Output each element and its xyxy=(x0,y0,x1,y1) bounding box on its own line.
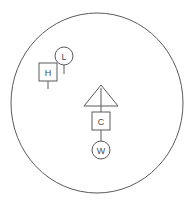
diagram-canvas: L H C W xyxy=(0,0,195,207)
warm-circle xyxy=(92,141,110,159)
symbol-cold[interactable]: C xyxy=(92,112,110,130)
symbol-warning-triangle[interactable] xyxy=(84,85,118,106)
symbol-high-pressure[interactable]: H xyxy=(39,63,57,89)
high-pressure-square xyxy=(39,63,57,81)
cold-square xyxy=(92,112,110,130)
diagram-svg: L H C W xyxy=(0,0,195,207)
low-pressure-circle xyxy=(55,47,73,65)
symbol-warm[interactable]: W xyxy=(92,141,110,159)
symbol-low-pressure[interactable]: L xyxy=(55,47,73,74)
